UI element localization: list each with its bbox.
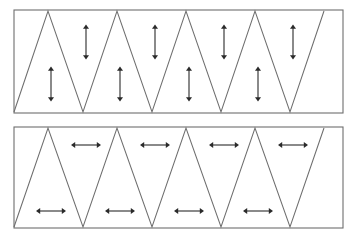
lower-zigzag-panel bbox=[14, 127, 343, 228]
upper-zigzag-panel bbox=[14, 10, 343, 113]
zigzag-diagram-canvas bbox=[0, 0, 355, 241]
panels-layer bbox=[14, 10, 343, 228]
diagram-container bbox=[0, 0, 355, 241]
